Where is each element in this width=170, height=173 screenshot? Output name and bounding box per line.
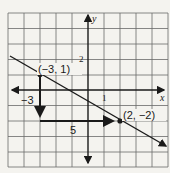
run-label: 5 (70, 124, 76, 136)
x-tick-1: 1 (102, 93, 107, 103)
point-label-2-neg2: (2, −2) (123, 109, 155, 121)
x-axis-label: x (159, 92, 165, 103)
y-tick-2: 2 (79, 54, 84, 64)
point-2-neg2 (117, 118, 122, 123)
coordinate-graph: y x 2 1 (−3, 1) (2, −2) −3 5 (0, 0, 170, 173)
y-axis-label: y (91, 13, 97, 24)
rise-label: −3 (21, 94, 34, 106)
point-label-neg3-1: (−3, 1) (38, 63, 70, 75)
